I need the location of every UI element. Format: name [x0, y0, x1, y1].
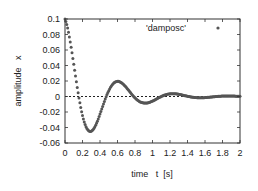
x-tick-label: 0.6 — [111, 148, 124, 158]
data-point — [78, 96, 81, 99]
data-point — [83, 120, 86, 123]
x-tick-label: 1.4 — [181, 148, 194, 158]
data-point — [77, 91, 80, 94]
x-tick-label: 0.8 — [129, 148, 142, 158]
data-point — [82, 117, 85, 120]
y-tick-label: 0.02 — [42, 76, 60, 86]
data-point — [70, 46, 73, 49]
data-point — [67, 31, 70, 34]
data-point — [99, 110, 102, 113]
y-tick-label: -0.06 — [39, 138, 60, 148]
x-axis-label: time t [s] — [131, 169, 173, 179]
data-point — [79, 106, 82, 109]
y-axis-label: amplitude x — [13, 55, 23, 107]
data-point — [68, 35, 71, 38]
y-tick-label: 0.1 — [47, 14, 60, 24]
x-tick-label: 1.6 — [199, 148, 212, 158]
data-series-damposc — [64, 18, 242, 133]
data-point — [66, 27, 69, 30]
y-tick-label: 0.04 — [42, 61, 60, 71]
data-point — [73, 69, 76, 72]
y-axis-ticks: 0.10.080.060.040.020-0.02-0.04-0.06 — [39, 14, 240, 148]
y-tick-label: 0.06 — [42, 45, 60, 55]
data-point — [75, 80, 78, 83]
x-tick-label: 1.8 — [216, 148, 229, 158]
y-tick-label: 0 — [55, 92, 60, 102]
x-axis-ticks: 00.20.40.60.811.21.41.61.82 — [62, 19, 242, 158]
x-tick-label: 2 — [237, 148, 242, 158]
y-tick-label: -0.02 — [39, 107, 60, 117]
data-point — [71, 51, 74, 54]
data-point — [81, 114, 84, 117]
chart: 00.20.40.60.811.21.41.61.82 0.10.080.060… — [0, 0, 258, 191]
x-tick-label: 0.4 — [94, 148, 107, 158]
data-point — [80, 110, 83, 113]
plot-frame — [65, 19, 240, 143]
data-point — [78, 101, 81, 104]
x-tick-label: 1 — [150, 148, 155, 158]
x-tick-label: 0.2 — [76, 148, 89, 158]
data-point — [71, 57, 74, 60]
y-tick-label: -0.04 — [39, 123, 60, 133]
data-point — [72, 63, 75, 66]
data-point — [74, 75, 77, 78]
legend: 'damposc' — [146, 23, 220, 33]
y-tick-label: 0.08 — [42, 30, 60, 40]
legend-label: 'damposc' — [146, 23, 186, 33]
data-point — [76, 86, 79, 89]
data-point — [65, 23, 68, 26]
x-tick-label: 1.2 — [164, 148, 177, 158]
x-tick-label: 0 — [62, 148, 67, 158]
data-point — [69, 40, 72, 43]
legend-marker-icon — [216, 26, 219, 29]
